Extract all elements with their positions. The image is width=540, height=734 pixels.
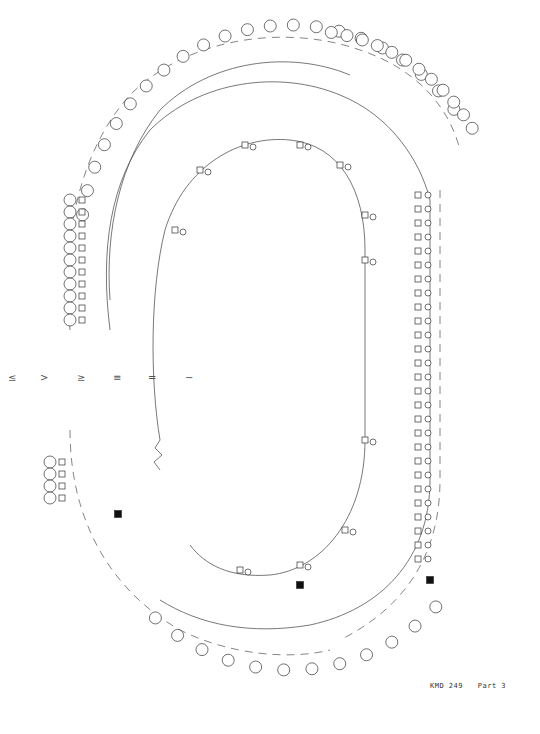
circled-number-icon: [278, 664, 290, 676]
male-node: [415, 528, 421, 534]
circled-number-icon: [149, 612, 161, 624]
outer-arc: [109, 62, 350, 300]
male-node: [415, 486, 421, 492]
male-node: [362, 257, 368, 263]
male-node: [79, 209, 85, 215]
male-node: [415, 402, 421, 408]
female-node: [425, 318, 431, 324]
female-node: [370, 259, 376, 265]
circled-number-icon: [64, 302, 76, 314]
circled-number-icon: [458, 109, 470, 121]
male-node: [415, 542, 421, 548]
male-node: [415, 332, 421, 338]
male-node: [79, 221, 85, 227]
circled-number-icon: [64, 194, 76, 206]
female-node: [305, 144, 311, 150]
female-node: [425, 402, 431, 408]
male-node: [415, 388, 421, 394]
dashed-boundary-lower: [70, 430, 330, 655]
female-node: [425, 220, 431, 226]
male-node: [415, 416, 421, 422]
male-node: [362, 212, 368, 218]
circled-number-icon: [44, 456, 56, 468]
middle-arc: [106, 82, 430, 629]
male-node: [415, 206, 421, 212]
generation-label-v: >: [40, 372, 48, 383]
female-node: [425, 290, 431, 296]
circled-number-icon: [386, 636, 398, 648]
circled-number-icon: [334, 658, 346, 670]
male-node: [297, 142, 303, 148]
document-footer: KMD 249 Part 3: [430, 682, 516, 690]
circled-number-icon: [196, 644, 208, 656]
circled-number-icon: [448, 96, 460, 108]
circled-number-icon: [124, 98, 136, 110]
circled-number-icon: [437, 84, 449, 96]
circled-number-icon: [64, 314, 76, 326]
male-node: [415, 472, 421, 478]
female-node: [305, 564, 311, 570]
generation-label-ii: =: [148, 372, 156, 383]
circled-number-icon: [241, 24, 253, 36]
circled-number-icon: [425, 73, 437, 85]
circled-number-icon: [371, 40, 383, 52]
male-node: [79, 197, 85, 203]
male-node: [415, 514, 421, 520]
male-node: [79, 293, 85, 299]
female-node: [425, 374, 431, 380]
male-node: [415, 374, 421, 380]
male-node: [59, 471, 65, 477]
female-node: [425, 514, 431, 520]
female-node: [345, 164, 351, 170]
male-node: [415, 360, 421, 366]
male-node: [79, 257, 85, 263]
circled-number-icon: [64, 278, 76, 290]
female-node: [350, 529, 356, 535]
male-node: [337, 162, 343, 168]
female-node: [425, 416, 431, 422]
male-node: [415, 556, 421, 562]
male-node: [427, 577, 434, 584]
circled-number-icon: [400, 54, 412, 66]
circled-number-icon: [158, 64, 170, 76]
male-node: [415, 276, 421, 282]
female-node: [425, 528, 431, 534]
female-node: [370, 214, 376, 220]
male-node: [415, 458, 421, 464]
circled-number-icon: [140, 80, 152, 92]
generation-label-iii: ≡: [113, 372, 121, 383]
dashed-boundary-upper: [68, 37, 461, 330]
circled-number-icon: [361, 649, 373, 661]
female-node: [425, 206, 431, 212]
male-node: [415, 192, 421, 198]
male-node: [242, 142, 248, 148]
circled-number-icon: [64, 254, 76, 266]
break-marker: [154, 440, 162, 470]
male-node: [59, 459, 65, 465]
female-node: [425, 346, 431, 352]
circled-number-icon: [430, 601, 442, 613]
female-node: [370, 439, 376, 445]
female-node: [250, 144, 256, 150]
male-node: [172, 227, 178, 233]
female-node: [180, 229, 186, 235]
female-node: [425, 542, 431, 548]
dashed-boundary-right: [340, 190, 440, 640]
male-node: [415, 444, 421, 450]
pedigree-diagram: [0, 0, 540, 734]
female-node: [425, 248, 431, 254]
male-node: [79, 245, 85, 251]
circled-number-icon: [64, 242, 76, 254]
circled-number-icon: [219, 30, 231, 42]
circled-number-icon: [177, 50, 189, 62]
circled-number-icon: [44, 492, 56, 504]
male-node: [115, 511, 122, 518]
circled-number-icon: [64, 206, 76, 218]
male-node: [415, 346, 421, 352]
female-node: [425, 500, 431, 506]
circled-number-icon: [44, 468, 56, 480]
female-node: [205, 169, 211, 175]
male-node: [415, 248, 421, 254]
male-node: [415, 430, 421, 436]
male-node: [79, 281, 85, 287]
